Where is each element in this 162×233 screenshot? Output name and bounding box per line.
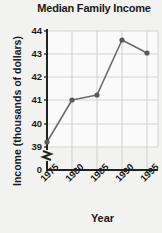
axis-break-icon	[43, 151, 51, 160]
y-tick-label-39: 39	[22, 142, 42, 152]
y-tick-label-40: 40	[22, 119, 42, 129]
y-tick-label-41: 41	[22, 95, 42, 105]
y-tick-label-44: 44	[22, 26, 42, 36]
plot-background	[47, 31, 158, 147]
chart-container: Median Family Income Income (thousands o…	[0, 0, 162, 233]
y-tick-label-42: 42	[22, 72, 42, 82]
data-point-1975	[44, 139, 49, 144]
y-tick-label-43: 43	[22, 49, 42, 59]
data-point-1990	[119, 37, 124, 42]
data-point-1980	[69, 97, 74, 102]
data-point-1995	[144, 50, 149, 55]
data-point-1985	[94, 92, 99, 97]
